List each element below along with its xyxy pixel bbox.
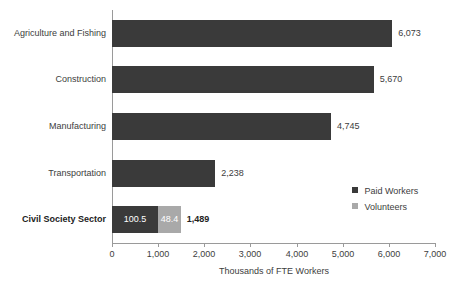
x-axis-title: Thousands of FTE Workers [112, 266, 436, 276]
bar-segment-paid-workers [112, 66, 374, 93]
category-label-construction: Construction [0, 74, 106, 85]
x-axis-tick-label: 6,000 [364, 249, 414, 259]
bar-chart: Agriculture and Fishing Construction Man… [0, 0, 461, 289]
x-axis-tick-mark [250, 243, 251, 247]
x-axis-tick-label: 7,000 [410, 249, 460, 259]
category-label-manufacturing: Manufacturing [0, 121, 106, 132]
category-label-transportation: Transportation [0, 168, 106, 179]
x-axis-tick-label: 4,000 [272, 249, 322, 259]
bar-total-value: 2,238 [221, 160, 244, 187]
x-axis-tick-label: 3,000 [225, 249, 275, 259]
bar-total-value: 4,745 [337, 113, 360, 140]
x-axis-line [112, 243, 436, 244]
x-axis-tick-label: 1,000 [133, 249, 183, 259]
legend-label: Volunteers [365, 202, 408, 212]
bar-segment-paid-workers [112, 113, 331, 140]
bar-segment-label-volunteers: 48.4 [158, 206, 181, 233]
x-axis-tick-label: 0 [87, 249, 137, 259]
bar-total-value: 5,670 [380, 66, 403, 93]
legend-item-paid-workers[interactable]: Paid Workers [352, 185, 418, 201]
x-axis-tick-label: 2,000 [179, 249, 229, 259]
category-label-civil-society-sector: Civil Society Sector [0, 214, 106, 225]
x-axis-tick-label: 5,000 [318, 249, 368, 259]
legend-swatch-icon [352, 187, 358, 193]
bar-segment-paid-workers [112, 20, 392, 47]
x-axis-tick-mark [112, 243, 113, 247]
bar-total-value: 1,489 [187, 206, 210, 233]
x-axis-tick-mark [158, 243, 159, 247]
legend-label: Paid Workers [365, 186, 419, 196]
x-axis-tick-mark [204, 243, 205, 247]
category-label-agriculture-and-fishing: Agriculture and Fishing [0, 28, 106, 39]
bar-segment-paid-workers [112, 160, 215, 187]
x-axis-tick-mark [435, 243, 436, 247]
bar-total-value: 6,073 [398, 20, 421, 47]
bar-segment-label-paid: 100.5 [112, 206, 158, 233]
x-axis-tick-mark [343, 243, 344, 247]
x-axis-tick-mark [297, 243, 298, 247]
legend-swatch-icon [352, 203, 358, 209]
chart-legend: Paid Workers Volunteers [352, 185, 418, 217]
x-axis-tick-mark [389, 243, 390, 247]
legend-item-volunteers[interactable]: Volunteers [352, 201, 418, 217]
